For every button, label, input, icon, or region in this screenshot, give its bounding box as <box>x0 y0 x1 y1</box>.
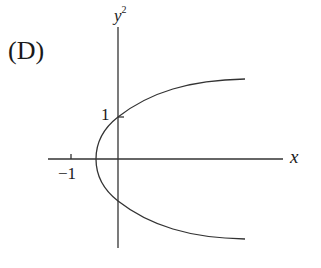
y-axis-label-exponent: 2 <box>122 4 127 15</box>
x-axis-label: x <box>290 147 298 166</box>
y-axis-label-base: y <box>114 6 122 25</box>
x-tick-label: −1 <box>58 165 76 182</box>
y-axis-label: y2 <box>114 5 127 24</box>
graph-canvas <box>0 0 321 268</box>
y-intercept-label: 1 <box>101 106 110 123</box>
option-label: (D) <box>8 38 44 64</box>
